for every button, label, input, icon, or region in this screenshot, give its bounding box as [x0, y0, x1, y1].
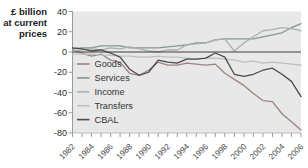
x-axis-label: 2000 — [229, 142, 249, 162]
y-axis-label: -80 — [54, 128, 67, 138]
y-axis-label: 20 — [57, 27, 67, 37]
x-axis-label: 1984 — [77, 142, 97, 162]
chart-svg: 40200-20-40-60-8019821984198619881990199… — [0, 0, 308, 168]
y-axis-label: 40 — [57, 7, 67, 17]
x-axis-label: 1998 — [210, 142, 230, 162]
x-axis-label: 1992 — [153, 142, 173, 162]
legend-label: Income — [95, 87, 125, 97]
y-axis-label: 0 — [62, 47, 67, 57]
legend-label: Transfers — [95, 101, 134, 111]
x-axis-label: 2006 — [286, 142, 306, 162]
y-axis-label: -40 — [54, 88, 67, 98]
legend-label: Goods — [95, 59, 122, 69]
x-axis-label: 1982 — [58, 142, 78, 162]
x-axis-label: 1994 — [172, 142, 192, 162]
x-axis-label: 2004 — [267, 142, 287, 162]
x-axis-label: 1990 — [134, 142, 154, 162]
legend-label: CBAL — [95, 115, 119, 125]
x-axis-label: 1996 — [191, 142, 211, 162]
x-axis-label: 2002 — [248, 142, 268, 162]
x-axis-label: 1986 — [96, 142, 116, 162]
x-axis-label: 1988 — [115, 142, 135, 162]
y-axis-label: -20 — [54, 67, 67, 77]
y-axis-label: -60 — [54, 108, 67, 118]
legend-label: Services — [95, 73, 131, 83]
